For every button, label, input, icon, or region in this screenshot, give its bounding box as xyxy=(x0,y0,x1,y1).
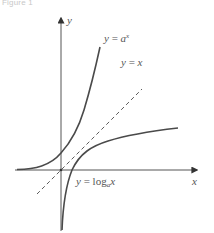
identity-label: y = x xyxy=(121,57,143,68)
exp-eq: = xyxy=(112,32,118,44)
log-arg: x xyxy=(110,175,115,187)
exponential-label: y = ax xyxy=(104,33,129,44)
identity-lhs: y xyxy=(121,56,126,68)
identity-eq: = xyxy=(129,56,135,68)
log-fn: log xyxy=(93,175,107,187)
log-eq: = xyxy=(84,175,90,187)
exp-lhs: y xyxy=(104,32,109,44)
identity-rhs: x xyxy=(138,56,143,68)
y-axis-label: y xyxy=(67,15,72,26)
exp-exponent: x xyxy=(126,32,129,40)
log-lhs: y xyxy=(76,175,81,187)
x-axis-label: x xyxy=(192,176,197,187)
logarithm-label: y = logax xyxy=(76,176,115,189)
